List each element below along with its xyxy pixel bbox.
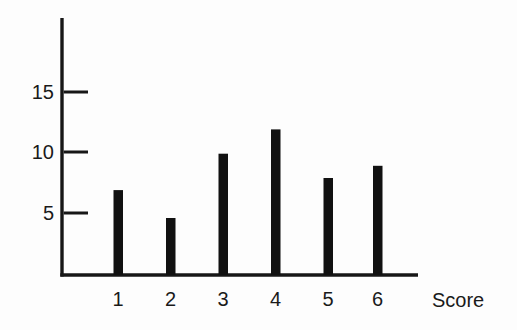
chart-canvas [0,0,517,330]
y-tick-label-15: 15 [22,82,54,102]
bar-6 [373,166,383,275]
x-tick-label-6: 6 [372,289,383,309]
bar-1 [114,190,124,275]
bar-chart: 15 10 5 1 2 3 4 5 6 Score [0,0,517,330]
y-tick-label-10: 10 [22,142,54,162]
x-axis-title: Score [432,289,484,312]
bar-5 [324,178,334,275]
x-tick-label-3: 3 [217,289,228,309]
bar-2 [166,218,176,275]
y-tick-label-5: 5 [22,203,54,223]
x-tick-label-1: 1 [112,289,123,309]
bar-3 [219,154,229,275]
x-tick-label-4: 4 [270,289,281,309]
x-tick-label-5: 5 [322,289,333,309]
x-tick-label-2: 2 [165,289,176,309]
bar-4 [271,129,281,275]
